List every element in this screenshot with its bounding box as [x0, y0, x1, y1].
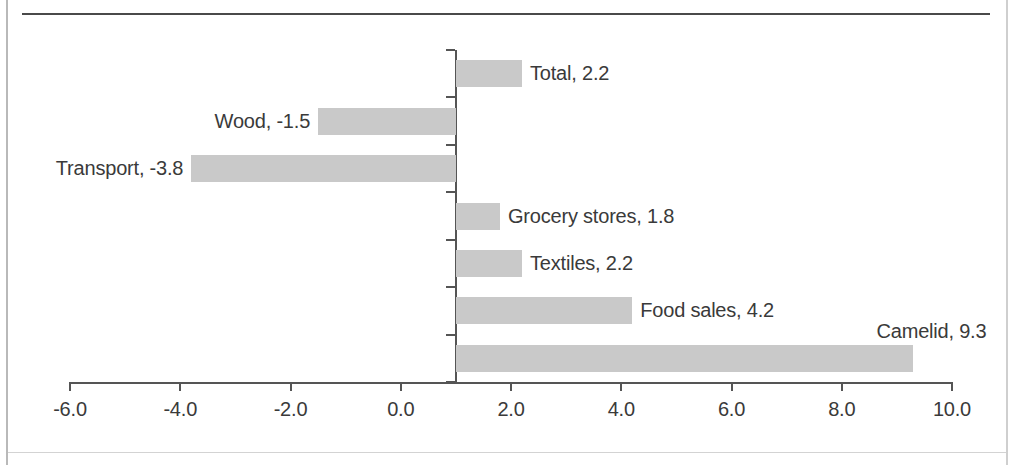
bar-data-label: Textiles, 2.2 [530, 252, 633, 275]
bar [456, 60, 522, 87]
bar [456, 203, 500, 230]
value-axis-tick-label: -6.0 [20, 398, 120, 421]
value-axis-tick-label: 10.0 [902, 398, 1002, 421]
category-axis-tick [446, 144, 455, 146]
bar-data-label: Total, 2.2 [530, 62, 609, 85]
value-axis-tick [290, 382, 292, 391]
value-axis-tick-label: 2.0 [461, 398, 561, 421]
bar-data-label: Wood, -1.5 [0, 110, 310, 133]
category-axis-tick [446, 96, 455, 98]
category-axis-tick [446, 191, 455, 193]
value-axis-tick [620, 382, 622, 391]
value-axis-tick-label: 8.0 [792, 398, 892, 421]
value-axis-tick-label: 4.0 [571, 398, 671, 421]
bar-data-label: Grocery stores, 1.8 [508, 205, 674, 228]
bar [318, 108, 456, 135]
bar-chart-plot-area: -6.0-4.0-2.00.02.04.06.08.010.0Total, 2.… [0, 0, 1010, 465]
category-axis-tick [446, 49, 455, 51]
value-axis-tick-label: -2.0 [241, 398, 341, 421]
bar-data-label: Food sales, 4.2 [640, 299, 774, 322]
bar-data-label: Transport, -3.8 [0, 157, 183, 180]
bar [456, 345, 914, 372]
category-axis-tick [446, 381, 455, 383]
value-axis-tick [731, 382, 733, 391]
value-axis-tick [69, 382, 71, 391]
value-axis-tick-label: 6.0 [682, 398, 782, 421]
value-axis-tick [951, 382, 953, 391]
value-axis-tick-label: 0.0 [351, 398, 451, 421]
bar [456, 250, 522, 277]
value-axis-tick-label: -4.0 [130, 398, 230, 421]
value-axis-tick [179, 382, 181, 391]
chart-screenshot: -6.0-4.0-2.00.02.04.06.08.010.0Total, 2.… [0, 0, 1010, 465]
bar-data-label: Camelid, 9.3 [0, 320, 986, 343]
value-axis-tick [400, 382, 402, 391]
value-axis-tick [841, 382, 843, 391]
category-axis-tick [446, 286, 455, 288]
category-axis-tick [446, 239, 455, 241]
bar [191, 155, 456, 182]
value-axis-tick [510, 382, 512, 391]
